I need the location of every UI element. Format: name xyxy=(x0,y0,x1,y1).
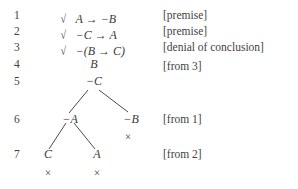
closure-mark-a: × xyxy=(94,167,101,180)
justification-text: [denial of conclusion] xyxy=(163,41,264,53)
tree-node-not-a: −A xyxy=(62,112,77,127)
tree-node-not-c: −C xyxy=(86,74,102,89)
justification-text: [premise] xyxy=(163,9,207,21)
line-number: 6 xyxy=(14,113,20,125)
line-number: 2 xyxy=(14,25,20,37)
tree-node-b: B xyxy=(90,57,97,72)
justification-text: [premise] xyxy=(163,25,207,37)
line-number: 5 xyxy=(14,75,20,87)
formula-text: −C → A xyxy=(76,28,117,42)
check-icon: √ xyxy=(60,44,66,59)
closure-mark-not-b: × xyxy=(125,131,132,144)
closure-mark-c: × xyxy=(45,167,52,180)
tree-node-c: C xyxy=(44,147,52,162)
justification-text: [from 3] xyxy=(163,60,202,72)
line-number: 1 xyxy=(14,9,20,21)
proof-tree-figure: 1 2 3 4 5 6 7 √ A → −B √ −C → A √ −(B → … xyxy=(0,0,298,189)
formula-text: A → −B xyxy=(76,12,117,26)
tree-node-a: A xyxy=(93,147,100,162)
tree-node-not-b: −B xyxy=(123,112,138,127)
justification-text: [from 1] xyxy=(163,113,202,125)
formula-text: −(B → C) xyxy=(76,44,125,58)
line-number: 4 xyxy=(14,58,20,70)
line-number: 7 xyxy=(14,148,20,160)
justification-text: [from 2] xyxy=(163,148,202,160)
line-number: 3 xyxy=(14,41,20,53)
